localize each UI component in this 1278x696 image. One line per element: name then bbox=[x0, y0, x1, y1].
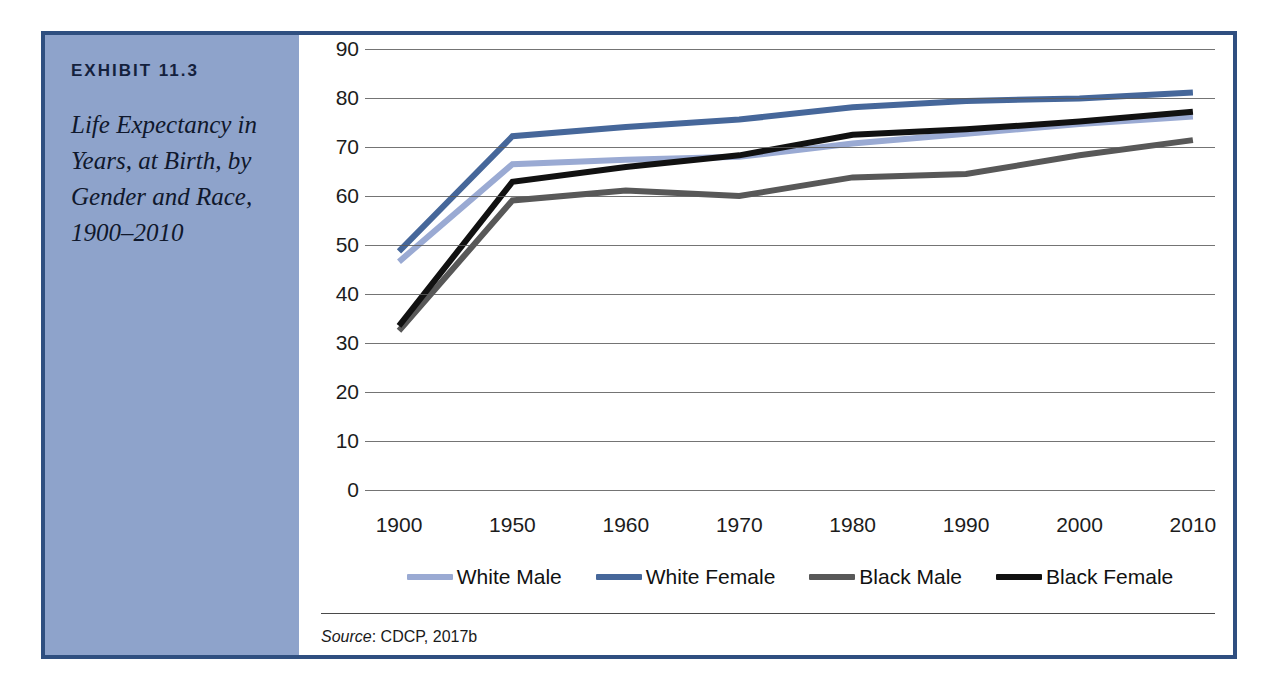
gridline bbox=[365, 245, 1215, 246]
chart-panel: 0102030405060708090 19001950196019701980… bbox=[299, 35, 1233, 655]
y-axis-tick-label: 50 bbox=[313, 233, 359, 257]
series-line bbox=[399, 93, 1193, 252]
x-axis-tick-label: 1980 bbox=[829, 513, 876, 537]
legend-label: Black Female bbox=[1046, 565, 1173, 589]
exhibit-frame: EXHIBIT 11.3 Life Expectancy in Years, a… bbox=[41, 31, 1237, 659]
chart-legend: White MaleWhite FemaleBlack MaleBlack Fe… bbox=[365, 560, 1215, 594]
line-series-svg bbox=[365, 35, 1215, 505]
y-axis-tick-label: 40 bbox=[313, 282, 359, 306]
legend-item[interactable]: White Female bbox=[596, 565, 776, 589]
source-separator: : bbox=[372, 628, 381, 645]
source-note: Source: CDCP, 2017b bbox=[321, 628, 477, 646]
y-axis-tick-label: 30 bbox=[313, 331, 359, 355]
x-axis-tick-label: 1960 bbox=[602, 513, 649, 537]
gridline bbox=[365, 196, 1215, 197]
y-axis-tick-label: 90 bbox=[313, 37, 359, 61]
source-text: CDCP, 2017b bbox=[381, 628, 478, 645]
x-axis: 19001950196019701980199020002010 bbox=[365, 505, 1215, 545]
gridline bbox=[365, 49, 1215, 50]
y-axis-tick-label: 0 bbox=[313, 478, 359, 502]
x-axis-tick-label: 1900 bbox=[376, 513, 423, 537]
x-axis-tick-label: 2000 bbox=[1056, 513, 1103, 537]
y-axis-tick-label: 20 bbox=[313, 380, 359, 404]
legend-item[interactable]: Black Male bbox=[809, 565, 962, 589]
x-axis-tick-label: 1970 bbox=[716, 513, 763, 537]
plot-area: 0102030405060708090 bbox=[299, 35, 1233, 505]
grid-area bbox=[365, 35, 1215, 505]
x-axis-tick-label: 1950 bbox=[489, 513, 536, 537]
legend-item[interactable]: Black Female bbox=[996, 565, 1173, 589]
gridline bbox=[365, 294, 1215, 295]
gridline bbox=[365, 392, 1215, 393]
y-axis-tick-label: 60 bbox=[313, 184, 359, 208]
exhibit-number-label: EXHIBIT 11.3 bbox=[71, 61, 277, 81]
gridline bbox=[365, 98, 1215, 99]
exhibit-title: Life Expectancy in Years, at Birth, by G… bbox=[71, 107, 277, 251]
gridline bbox=[365, 490, 1215, 491]
legend-label: White Male bbox=[457, 565, 562, 589]
y-axis-tick-label: 10 bbox=[313, 429, 359, 453]
y-axis: 0102030405060708090 bbox=[307, 35, 359, 505]
source-label: Source bbox=[321, 628, 372, 645]
y-axis-tick-label: 70 bbox=[313, 135, 359, 159]
legend-label: Black Male bbox=[859, 565, 962, 589]
gridline bbox=[365, 441, 1215, 442]
legend-color-swatch bbox=[407, 574, 453, 580]
x-axis-tick-label: 2010 bbox=[1170, 513, 1217, 537]
legend-color-swatch bbox=[596, 574, 642, 580]
exhibit-caption-panel: EXHIBIT 11.3 Life Expectancy in Years, a… bbox=[45, 35, 299, 655]
gridline bbox=[365, 147, 1215, 148]
series-line bbox=[399, 140, 1193, 331]
source-divider bbox=[321, 613, 1215, 614]
legend-item[interactable]: White Male bbox=[407, 565, 562, 589]
legend-color-swatch bbox=[996, 574, 1042, 580]
x-axis-tick-label: 1990 bbox=[943, 513, 990, 537]
legend-color-swatch bbox=[809, 574, 855, 580]
legend-label: White Female bbox=[646, 565, 776, 589]
y-axis-tick-label: 80 bbox=[313, 86, 359, 110]
gridline bbox=[365, 343, 1215, 344]
